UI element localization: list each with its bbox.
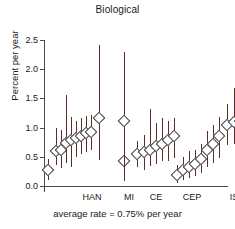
data-point-marker [118,115,131,128]
x-axis-group-label-is: IS [230,192,235,202]
y-tick-mark [40,157,44,158]
error-bar [150,109,151,166]
error-bar [99,45,100,160]
x-axis-group-label-cep: CEP [183,192,202,202]
y-tick-mark [40,186,44,187]
y-tick-label: 1.5 [25,93,38,103]
x-axis-group-label-ce: CE [150,192,163,202]
chart-container: Biological Percent per year 0.00.51.01.5… [0,0,235,229]
x-axis-group-label-han: HAN [82,192,101,202]
chart-title: Biological [0,4,235,15]
y-tick-label: 0.5 [25,152,38,162]
y-tick-mark [40,69,44,70]
x-axis-group-label-mi: MI [124,192,134,202]
y-tick-label: 1.0 [25,123,38,133]
chart-annotation: average rate = 0.75% per year [0,208,235,219]
plot-area: 0.00.51.01.52.02.5 HANMICECEPISHG [44,34,228,192]
y-tick-mark [40,40,44,41]
y-tick-mark [40,98,44,99]
y-tick-label: 2.0 [25,64,38,74]
x-axis-line [44,186,228,187]
error-bar [66,95,67,162]
y-axis-title: Percent per year [9,6,20,126]
data-point-marker [93,111,106,124]
y-tick-label: 0.0 [25,181,38,191]
y-tick-label: 2.5 [25,35,38,45]
y-tick-mark [40,128,44,129]
